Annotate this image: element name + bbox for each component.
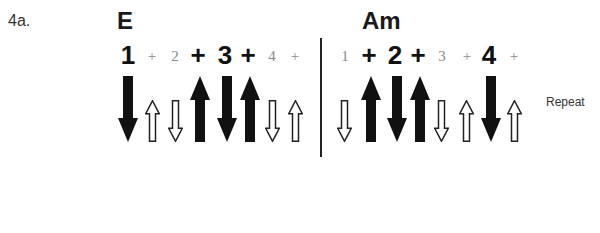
exercise-label: 4a. [8,12,30,30]
solid-down-arrow-icon [481,76,501,146]
beat-count-4: 4 [260,49,284,64]
beat-count-and: + [357,42,381,68]
solid-down-arrow-icon [217,76,237,146]
chord-label-am: Am [362,9,401,33]
repeat-label: Repeat [546,95,585,109]
solid-up-arrow-icon [361,76,381,146]
solid-up-arrow-icon [240,76,260,146]
beat-count-and: + [186,42,210,68]
hollow-up-arrow-icon [507,100,522,146]
beat-count-and: + [283,49,307,64]
beat-count-1: 1 [333,49,357,64]
beat-count-and: + [236,42,260,68]
chord-label-e: E [117,9,133,33]
hollow-up-arrow-icon [288,100,303,146]
beat-count-3: 3 [213,42,237,68]
beat-count-2: 2 [383,42,407,68]
hollow-up-arrow-icon [145,100,160,146]
hollow-down-arrow-icon [168,100,183,146]
beat-count-and: + [140,49,164,64]
solid-down-arrow-icon [118,76,138,146]
hollow-down-arrow-icon [265,100,280,146]
hollow-down-arrow-icon [434,100,449,146]
beat-count-and: + [406,42,430,68]
solid-down-arrow-icon [387,76,407,146]
hollow-down-arrow-icon [337,100,352,146]
beat-count-3: 3 [430,49,454,64]
hollow-up-arrow-icon [459,100,474,146]
bar-line-divider [320,38,322,157]
beat-count-2: 2 [163,49,187,64]
beat-count-1: 1 [116,42,140,68]
solid-up-arrow-icon [410,76,430,146]
beat-count-and: + [455,49,479,64]
beat-count-and: + [502,49,526,64]
solid-up-arrow-icon [190,76,210,146]
beat-count-4: 4 [477,42,501,68]
